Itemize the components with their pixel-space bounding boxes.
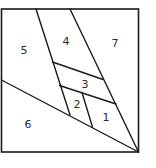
region-label-2: 2	[74, 98, 81, 111]
region-label-5: 5	[21, 44, 28, 57]
region-label-6: 6	[25, 118, 32, 131]
partition-diagram: 1 2 3 4 5 6 7	[0, 0, 156, 168]
region-label-7: 7	[112, 37, 119, 50]
square-frame	[2, 9, 139, 152]
region-label-3: 3	[82, 78, 89, 91]
region-label-4: 4	[63, 35, 70, 48]
region-label-1: 1	[103, 111, 110, 124]
